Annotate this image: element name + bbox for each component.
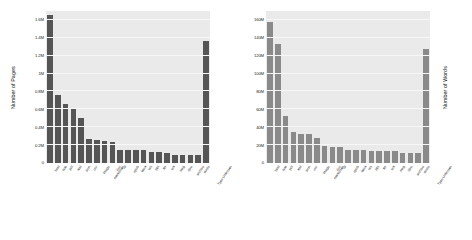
x-axis-tick-label: epub: [132, 165, 140, 174]
y-axis-tick-label: 1.6M: [0, 17, 44, 22]
x-axis-tick-label: xls: [382, 165, 388, 171]
bar: [353, 150, 359, 163]
gridline: [46, 19, 210, 20]
x-axis-tick-label: csv: [312, 165, 318, 171]
gridline: [266, 144, 430, 145]
y-axis-tick-label: 1M: [0, 71, 44, 76]
bar: [63, 104, 69, 163]
bar: [125, 150, 131, 163]
bar: [306, 134, 312, 163]
bar: [267, 22, 273, 163]
bar: [172, 155, 178, 163]
bar: [337, 147, 343, 163]
y-axis-tick-label: 0.4M: [0, 125, 44, 130]
y-axis-tick-label: 160M: [236, 17, 264, 22]
bar: [141, 150, 147, 163]
x-axis-tick-label: tex: [390, 165, 396, 171]
chart-panel-pages: Number of Pages 00.2M0.4M0.6M0.8M1M1.2M1…: [0, 0, 236, 240]
plot-area-left: [46, 11, 210, 163]
bar: [117, 150, 123, 163]
x-axis-tick-label: html: [274, 165, 281, 173]
bar: [392, 151, 398, 163]
x-axis-tick-label: xls: [162, 165, 168, 171]
bar: [322, 146, 328, 163]
y-axis-tick-label: 0: [236, 160, 264, 165]
x-axis-tick-label: xml: [77, 165, 83, 172]
bar: [369, 151, 375, 163]
gridline: [46, 108, 210, 109]
x-axis-tick-label: msg: [179, 165, 186, 173]
bar: [400, 153, 406, 163]
bar: [110, 142, 116, 163]
gridline: [266, 19, 430, 20]
gridline: [266, 37, 430, 38]
gridline: [266, 55, 430, 56]
bar: [78, 118, 84, 163]
bar: [298, 134, 304, 164]
y-axis-tick-label: 0.8M: [0, 89, 44, 94]
y-axis-tick-label: 80M: [236, 89, 264, 94]
y-axis-tick-label: 120M: [236, 53, 264, 58]
x-axis-tick-label: image: [102, 165, 111, 175]
x-axis-tick-label: latex: [140, 165, 147, 173]
x-axis-tick-label: odt: [367, 165, 373, 171]
bar: [156, 152, 162, 163]
y-axis-tick-label: 0.2M: [0, 143, 44, 148]
gridline: [266, 90, 430, 91]
y-axis-tick-label: 0: [0, 160, 44, 165]
bar: [408, 153, 414, 163]
y-axis-tick-label: 60M: [236, 107, 264, 112]
y-axis-tick-label: 140M: [236, 35, 264, 40]
bar: [180, 155, 186, 163]
x-axis-tick-label: latex: [360, 165, 367, 173]
bar: [275, 44, 281, 163]
y-axis-tick-label: 1.2M: [0, 53, 44, 58]
x-axis-tick-label: msg: [399, 165, 406, 173]
bar: [330, 147, 336, 163]
bar: [291, 132, 297, 163]
x-axis-tick-label: xml: [297, 165, 303, 172]
bar: [86, 139, 92, 163]
gridline: [266, 108, 430, 109]
bar: [195, 155, 201, 163]
bar: [188, 155, 194, 163]
x-axis-tick-label: djvu: [186, 165, 193, 172]
x-axis-tick-label: json: [305, 165, 312, 172]
gridline: [46, 37, 210, 38]
gridline: [46, 144, 210, 145]
x-axis-tick-label: ppt: [374, 165, 380, 171]
gridline: [46, 55, 210, 56]
bar: [314, 138, 320, 163]
y-axis-tick-label: 40M: [236, 125, 264, 130]
bar: [415, 153, 421, 163]
x-axis-tick-label: pdf: [288, 165, 294, 171]
y-axis-title-right: Number of Words: [442, 66, 448, 109]
bar: [149, 152, 155, 163]
x-axis-tick-label: json: [85, 165, 92, 172]
x-axis-tick-label: epub: [352, 165, 360, 174]
bar: [55, 95, 61, 163]
x-axis-tick-label: text: [281, 165, 287, 172]
bar: [345, 150, 351, 163]
x-axis-tick-label: odt: [147, 165, 153, 171]
bar-series-left: [46, 11, 210, 163]
gridline: [266, 73, 430, 74]
x-axis-tick-label: Type Unknown: [437, 165, 453, 186]
gridline: [46, 126, 210, 127]
x-axis-tick-label: tex: [170, 165, 176, 171]
y-axis-tick-label: 0.6M: [0, 107, 44, 112]
x-axis-tick-label: Type Unknown: [217, 165, 233, 186]
x-axis-tick-label: html: [54, 165, 61, 173]
bar: [133, 150, 139, 163]
x-axis-tick-label: ppt: [154, 165, 160, 171]
chart-panel-words: Number of Words 020M40M60M80M100M120M140…: [236, 0, 472, 240]
y-axis-tick-label: 20M: [236, 143, 264, 148]
x-axis-tick-label: pdf: [68, 165, 74, 171]
bar: [361, 150, 367, 163]
gridline: [46, 90, 210, 91]
gridline: [266, 126, 430, 127]
y-axis-tick-label: 1.4M: [0, 35, 44, 40]
bar: [71, 108, 77, 163]
bar: [423, 49, 429, 163]
x-axis-tick-label: image: [322, 165, 331, 175]
